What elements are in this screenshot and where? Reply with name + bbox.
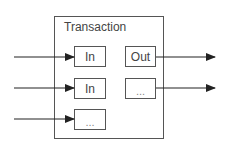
arrows-layer — [0, 0, 230, 150]
